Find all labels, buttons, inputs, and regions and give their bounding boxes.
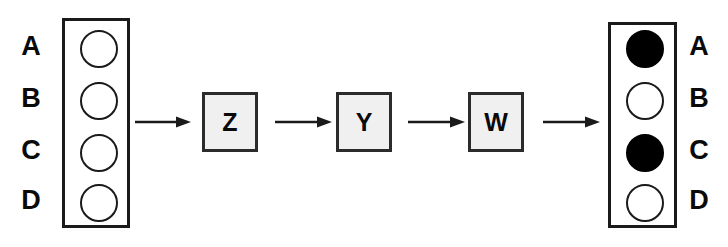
input-circle-c[interactable] [80, 134, 118, 172]
input-column-container [62, 18, 130, 228]
arrow-input-to-z [135, 115, 191, 129]
right-row-label-c: C [684, 137, 714, 164]
process-box-z[interactable]: Z [202, 92, 258, 152]
output-circle-a[interactable] [626, 30, 664, 68]
process-box-y[interactable]: Y [336, 92, 392, 152]
input-circle-b[interactable] [80, 82, 118, 120]
right-row-label-a: A [684, 33, 714, 60]
arrow-z-to-y [275, 115, 332, 129]
output-column-container [608, 22, 677, 228]
output-circle-b[interactable] [626, 82, 664, 120]
right-row-label-b: B [684, 85, 714, 112]
left-row-label-d: D [16, 187, 46, 214]
input-circle-a[interactable] [80, 30, 118, 68]
arrow-w-to-output [543, 115, 600, 129]
left-row-label-a: A [16, 33, 46, 60]
input-circle-d[interactable] [80, 184, 118, 222]
left-row-label-c: C [16, 137, 46, 164]
output-circle-c[interactable] [626, 134, 664, 172]
diagram-canvas: A B C D Z Y W [0, 0, 728, 247]
process-box-w[interactable]: W [468, 92, 524, 152]
left-row-label-b: B [16, 85, 46, 112]
arrow-y-to-w [408, 115, 465, 129]
right-row-label-d: D [684, 187, 714, 214]
output-circle-d[interactable] [626, 184, 664, 222]
